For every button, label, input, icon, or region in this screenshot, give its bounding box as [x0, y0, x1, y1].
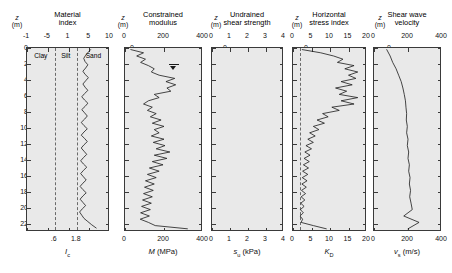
y-tick-mark — [212, 192, 216, 193]
axis-title-unit: (MPa) — [155, 247, 178, 256]
axis-title-material-index: Ic — [65, 248, 70, 259]
y-tick-mark — [212, 144, 216, 145]
y-tick-mark — [280, 192, 283, 193]
depth-tick-label: 8 — [6, 108, 28, 115]
axis-title-subscript: D — [330, 252, 334, 258]
depth-tick-label: 14 — [6, 156, 28, 163]
plot-box-shear-wave-velocity — [373, 47, 441, 231]
y-tick-mark — [280, 176, 283, 177]
top-tick-label: 200 — [401, 32, 413, 39]
plot-box-undrained-shear-strength — [211, 47, 283, 231]
axis-title-unit: (m/s) — [401, 247, 420, 256]
y-tick-mark — [212, 112, 216, 113]
x-tick-mark — [266, 228, 267, 231]
x-tick-mark — [230, 48, 231, 52]
y-tick-mark — [212, 64, 216, 65]
x-tick-mark — [266, 48, 267, 52]
y-tick-mark — [280, 48, 283, 49]
depth-tick-label: 12 — [6, 140, 28, 147]
bottom-tick-label: 0 — [371, 235, 375, 242]
y-tick-mark — [212, 48, 216, 49]
bottom-tick-label: 400 — [435, 235, 447, 242]
y-tick-mark — [280, 80, 283, 81]
y-tick-mark — [280, 64, 283, 65]
data-curve-material-index — [27, 48, 109, 231]
depth-tick-label: 6 — [6, 92, 28, 99]
water-table-icon — [170, 66, 176, 70]
y-tick-mark — [280, 128, 283, 129]
depth-tick-label: 22 — [6, 220, 28, 227]
depth-tick-label: 16 — [6, 172, 28, 179]
axis-title-unit: (kPa) — [240, 247, 260, 256]
depth-tick-label: 20 — [6, 204, 28, 211]
y-tick-mark — [280, 160, 283, 161]
y-tick-mark — [212, 224, 216, 225]
depth-tick-label: 2 — [6, 60, 28, 67]
y-tick-mark — [212, 80, 216, 81]
y-tick-mark — [212, 160, 216, 161]
plot-box-material-index: ClaySiltSand — [26, 47, 109, 231]
y-tick-mark — [212, 128, 216, 129]
data-curve-shear-wave-velocity — [374, 48, 441, 231]
x-tick-mark — [230, 228, 231, 231]
depth-tick-label: 4 — [6, 76, 28, 83]
y-tick-mark — [280, 224, 283, 225]
axis-title-subscript: c — [67, 252, 70, 258]
y-tick-mark — [212, 208, 216, 209]
plot-box-constrained-modulus — [124, 47, 202, 231]
y-tick-mark — [280, 96, 283, 97]
data-curve-constrained-modulus — [125, 48, 202, 231]
y-tick-mark — [280, 208, 283, 209]
axis-title-shear-wave-velocity: vs (m/s) — [394, 248, 420, 259]
top-tick-label: 0 — [371, 32, 375, 39]
axis-title-undrained-shear-strength: su (kPa) — [233, 248, 260, 259]
axis-title-constrained-modulus: M (MPa) — [148, 248, 177, 256]
panel-title-shear-wave-velocity: Shear wavevelocity — [357, 11, 452, 28]
y-tick-mark — [212, 176, 216, 177]
x-tick-mark — [248, 228, 249, 231]
panel-title-line2: velocity — [357, 19, 452, 27]
y-tick-mark — [280, 144, 283, 145]
y-tick-mark — [280, 112, 283, 113]
depth-tick-label: 18 — [6, 188, 28, 195]
depth-tick-label: 10 — [6, 124, 28, 131]
panel-bottom-ticks-shear-wave-velocity: 0200400 — [0, 235, 443, 244]
plot-box-horizontal-stress-index — [292, 47, 366, 231]
x-tick-mark — [212, 228, 213, 231]
bottom-tick-label: 200 — [401, 235, 413, 242]
axis-title-horizontal-stress-index: KD — [324, 248, 333, 259]
panel-top-ticks-shear-wave-velocity: 0200400 — [0, 32, 443, 41]
x-tick-mark — [248, 48, 249, 52]
y-tick-mark — [212, 96, 216, 97]
top-tick-label: 400 — [435, 32, 447, 39]
data-curve-horizontal-stress-index — [293, 48, 366, 231]
depth-tick-label: 0 — [6, 44, 28, 51]
